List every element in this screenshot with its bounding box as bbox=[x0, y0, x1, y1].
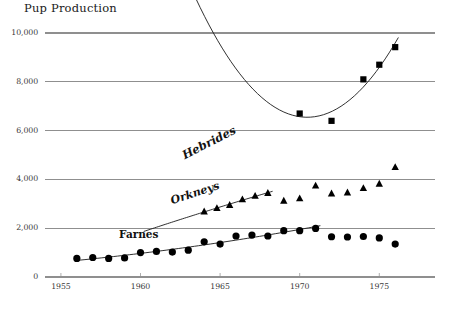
data-point bbox=[169, 249, 176, 256]
data-point bbox=[296, 194, 303, 201]
x-tick-label: 1960 bbox=[121, 282, 161, 291]
series-label-farnes: Farnes bbox=[119, 228, 158, 240]
trend-curve-hebrides bbox=[134, 0, 398, 117]
data-point bbox=[376, 234, 383, 241]
data-point bbox=[376, 180, 383, 187]
data-point bbox=[344, 233, 351, 240]
series-hebrides bbox=[297, 44, 399, 124]
x-tick-label: 1965 bbox=[200, 282, 240, 291]
data-point bbox=[248, 231, 255, 238]
data-point bbox=[185, 247, 192, 254]
data-point bbox=[264, 232, 271, 239]
data-point bbox=[89, 254, 96, 261]
x-tick-label: 1970 bbox=[280, 282, 320, 291]
pup-production-chart: Pup Production 02,0004,0006,0008,00010,0… bbox=[0, 0, 451, 310]
y-tick-label: 0 bbox=[2, 272, 38, 281]
data-point bbox=[376, 62, 382, 68]
data-point bbox=[328, 233, 335, 240]
data-point bbox=[153, 248, 160, 255]
data-point bbox=[392, 240, 399, 247]
data-point bbox=[280, 197, 287, 204]
data-point bbox=[328, 190, 335, 197]
plot-area bbox=[0, 0, 451, 310]
x-tick-label: 1955 bbox=[41, 282, 81, 291]
data-point bbox=[328, 118, 334, 124]
data-point bbox=[121, 254, 128, 261]
data-point bbox=[264, 189, 271, 196]
data-point bbox=[392, 163, 399, 170]
x-tick-label: 1975 bbox=[359, 282, 399, 291]
data-point bbox=[137, 249, 144, 256]
y-tick-label: 4,000 bbox=[2, 174, 38, 183]
data-point bbox=[297, 110, 303, 116]
data-point bbox=[392, 44, 398, 50]
y-tick-label: 10,000 bbox=[2, 28, 38, 37]
data-point bbox=[360, 233, 367, 240]
data-point bbox=[73, 255, 80, 262]
data-point bbox=[344, 189, 351, 196]
data-point bbox=[105, 255, 112, 262]
data-point bbox=[360, 184, 367, 191]
data-point bbox=[201, 238, 208, 245]
y-tick-label: 8,000 bbox=[2, 77, 38, 86]
data-point bbox=[296, 227, 303, 234]
data-point bbox=[360, 76, 366, 82]
x-axis-ticks bbox=[61, 273, 379, 276]
data-point bbox=[239, 195, 246, 202]
data-point bbox=[217, 240, 224, 247]
data-point bbox=[312, 182, 319, 189]
y-tick-label: 2,000 bbox=[2, 223, 38, 232]
gridlines bbox=[45, 33, 435, 277]
series-orkneys bbox=[201, 163, 399, 214]
y-tick-label: 6,000 bbox=[2, 126, 38, 135]
data-point bbox=[312, 225, 319, 232]
data-point bbox=[280, 227, 287, 234]
data-point bbox=[232, 232, 239, 239]
